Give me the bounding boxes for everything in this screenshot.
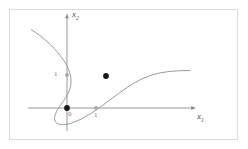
x-axis bbox=[28, 106, 196, 110]
tick-dot-x-one bbox=[94, 106, 98, 110]
y-axis-label-subscript: 2 bbox=[76, 15, 79, 21]
y-axis-label: x2 bbox=[72, 10, 79, 21]
point-interior bbox=[103, 73, 109, 79]
x-axis-label-subscript: 1 bbox=[201, 117, 204, 123]
tick-label-y-one: 1 bbox=[54, 71, 58, 78]
tick-dot-y-one bbox=[65, 73, 69, 77]
plot-svg bbox=[0, 0, 248, 149]
tick-label-x-one: 1 bbox=[94, 112, 98, 119]
tick-label-origin: 0 bbox=[68, 111, 72, 118]
x-axis-label: x1 bbox=[197, 112, 204, 123]
figure-container: x1 x2 0 1 1 bbox=[0, 0, 248, 149]
